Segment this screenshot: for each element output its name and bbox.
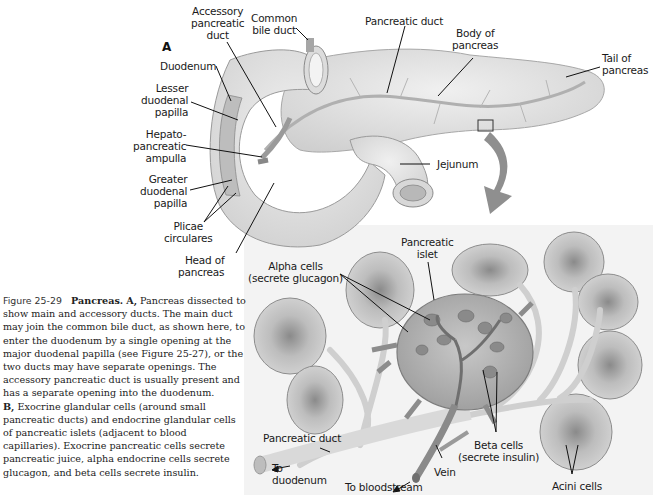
label-body-of-pancreas: Body of pancreas (452, 27, 498, 51)
label-duodenum: Duodenum (160, 60, 216, 72)
figure-number: Figure 25-29 (3, 295, 62, 306)
label-head-of-pancreas: Head of pancreas (178, 254, 224, 278)
label-jejunum: Jejunum (437, 158, 478, 170)
curved-arrow-icon (484, 132, 512, 214)
figure-title: Pancreas. (71, 295, 123, 306)
label-acini-cells: Acini cells (552, 480, 602, 492)
panel-letter-a: A (162, 40, 171, 54)
label-hepatopancreatic-ampulla: Hepato- pancreatic ampulla (133, 128, 186, 164)
label-lesser-duodenal-papilla: Lesser duodenal papilla (141, 82, 188, 118)
label-tail-of-pancreas: Tail of pancreas (602, 52, 648, 76)
label-to-duodenum: To duodenum (272, 462, 327, 486)
label-alpha-cells: Alpha cells (secrete glucagon) (248, 260, 343, 284)
caption-part-a-marker: A, (126, 295, 137, 306)
label-greater-duodenal-papilla: Greater duodenal papilla (140, 173, 187, 209)
caption-part-b-text: Exocrine glandular cells (around small p… (3, 401, 236, 478)
caption-part-a-text: Pancreas dissected to show main and acce… (3, 295, 246, 398)
caption-part-b-marker: B, (3, 401, 14, 412)
label-pancreatic-duct-b: Pancreatic duct (263, 432, 341, 444)
label-pancreatic-duct: Pancreatic duct (365, 15, 443, 27)
figure: A Accessory pancreatic duct Common bile … (0, 0, 653, 495)
label-to-bloodstream: To bloodstream (345, 481, 422, 493)
label-vein: Vein (434, 466, 456, 478)
label-accessory-pancreatic-duct: Accessory pancreatic duct (191, 5, 244, 41)
label-beta-cells: Beta cells (secrete insulin) (458, 439, 539, 463)
label-common-bile-duct: Common bile duct (251, 12, 297, 36)
label-pancreatic-islet: Pancreatic islet (401, 236, 454, 260)
label-plicae-circulares: Plicae circulares (164, 220, 213, 244)
figure-caption: Figure 25-29 Pancreas. A, Pancreas disse… (3, 294, 246, 479)
